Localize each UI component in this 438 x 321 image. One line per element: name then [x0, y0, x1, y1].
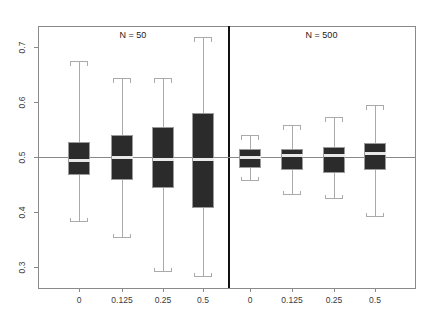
median-line	[112, 156, 133, 159]
boxplot-box	[112, 79, 133, 238]
boxplot-box	[365, 106, 386, 217]
y-axis-tick-label: 0.6	[17, 96, 27, 108]
y-axis-tick-label: 0.3	[17, 261, 27, 273]
x-axis-tick-label: 0.5	[197, 295, 209, 305]
box-iqr	[365, 144, 386, 170]
median-line	[324, 154, 345, 157]
median-line	[153, 158, 174, 161]
box-iqr	[282, 150, 303, 170]
x-axis-tick-label: 0.25	[326, 295, 343, 305]
boxplot-box	[153, 79, 174, 272]
boxplot-figure: 0.30.40.50.60.700.1250.250.500.1250.250.…	[0, 0, 438, 321]
box-iqr	[69, 143, 90, 175]
x-axis-tick-label: 0.25	[155, 295, 172, 305]
median-line	[240, 156, 261, 159]
panel-title-1: N = 50	[120, 30, 147, 40]
boxplot-box	[240, 136, 261, 181]
x-axis-tick-label: 0	[77, 295, 82, 305]
x-axis-tick-label: 0.125	[281, 295, 303, 305]
box-iqr	[324, 148, 345, 173]
y-axis-tick-label: 0.7	[17, 41, 27, 53]
y-axis-tick-label: 0.5	[17, 151, 27, 163]
boxplot-box	[282, 126, 303, 195]
x-axis-tick-label: 0.5	[369, 295, 381, 305]
plot-canvas: 0.30.40.50.60.700.1250.250.500.1250.250.…	[0, 0, 438, 321]
box-iqr	[153, 128, 174, 188]
y-axis-tick-label: 0.4	[17, 206, 27, 218]
boxplot-box	[193, 38, 214, 277]
x-axis-tick-label: 0.125	[111, 295, 133, 305]
panel-title-2: N = 500	[306, 30, 338, 40]
x-axis-tick-label: 0	[248, 295, 253, 305]
median-line	[282, 154, 303, 157]
axes-layer	[34, 26, 416, 292]
median-line	[365, 152, 386, 155]
boxplot-box	[324, 118, 345, 199]
boxplot-box	[69, 62, 90, 222]
median-line	[69, 159, 90, 162]
median-line	[193, 158, 214, 161]
